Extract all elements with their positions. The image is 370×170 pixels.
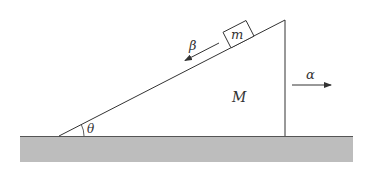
wedge-accel-label: α: [306, 67, 315, 82]
block-mass-label: m: [231, 27, 243, 42]
wedge-mass-label: M: [231, 89, 247, 105]
ground: [20, 137, 353, 162]
diagram-canvas: m β M α θ: [0, 0, 370, 170]
angle-arc: [81, 125, 84, 136]
incline-angle-label: θ: [87, 122, 95, 136]
block-accel-label: β: [188, 38, 197, 53]
